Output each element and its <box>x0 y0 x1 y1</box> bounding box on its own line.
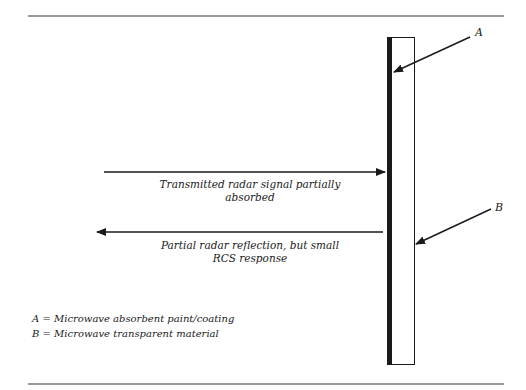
transmitted-signal-caption: Transmitted radar signal partially absor… <box>140 178 360 204</box>
transparent-material-panel <box>389 38 415 365</box>
label-A: A <box>475 26 483 39</box>
legend-item-B: B = Microwave transparent material <box>32 327 219 341</box>
reflected-line2: RCS response <box>130 252 370 265</box>
legend-text: = Microwave transparent material <box>43 328 219 339</box>
reflected-signal-caption: Partial radar reflection, but small RCS … <box>130 239 370 265</box>
transmitted-line2: absorbed <box>140 191 360 204</box>
legend-letter: A <box>32 313 39 324</box>
legend-text: = Microwave absorbent paint/coating <box>42 313 234 324</box>
reflected-line1: Partial radar reflection, but small <box>130 239 370 252</box>
absorbent-coating-layer <box>387 37 392 365</box>
label-B: B <box>495 201 503 214</box>
legend-item-A: A = Microwave absorbent paint/coating <box>32 312 234 326</box>
pointer-A <box>394 37 470 72</box>
pointer-B <box>416 209 491 244</box>
legend-letter: B <box>32 328 39 339</box>
transmitted-line1: Transmitted radar signal partially <box>140 178 360 191</box>
